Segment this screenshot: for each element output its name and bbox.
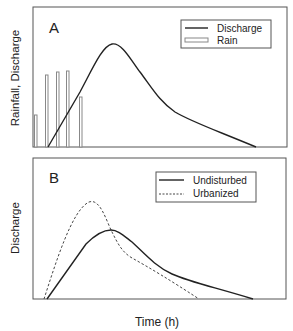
rain-bar — [35, 115, 38, 147]
panel-b: B Undisturbed Urbanized — [33, 158, 286, 299]
hydrograph-figure: A Discharge Rain B Undisturbed Urbanized — [0, 0, 293, 331]
panel-a-label: A — [49, 19, 59, 36]
rain-bar — [46, 75, 49, 147]
panel-b-label: B — [49, 169, 59, 186]
rain-bar — [57, 72, 60, 147]
legend-rain-swatch — [185, 38, 208, 42]
panel-b-legend: Undisturbed Urbanized — [156, 172, 256, 202]
panel-a-ylabel: Rainfall, Discharge — [9, 30, 21, 127]
rain-bar — [67, 71, 70, 147]
legend-discharge-label: Discharge — [217, 23, 262, 34]
legend-urbanized-label: Urbanized — [193, 188, 239, 199]
legend-undisturbed-label: Undisturbed — [193, 175, 247, 186]
legend-rain-label: Rain — [217, 35, 238, 46]
panel-a: A Discharge Rain — [33, 7, 287, 147]
panel-a-legend: Discharge Rain — [181, 20, 271, 48]
panel-b-ylabel: Discharge — [9, 202, 21, 254]
x-axis-label: Time (h) — [135, 315, 179, 329]
rain-bar — [80, 97, 83, 147]
